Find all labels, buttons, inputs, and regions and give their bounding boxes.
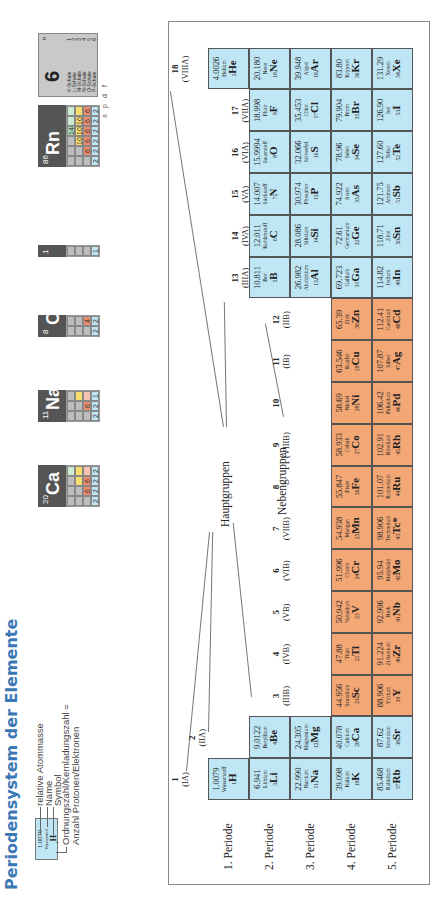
element-cell-xe[interactable]: 131.29Xenon54Xe <box>372 48 413 90</box>
element-cell-zr[interactable]: 91.224Zirkonium40Zr <box>372 633 413 675</box>
atomic-mass: 12.011 <box>253 216 262 256</box>
element-cell-nb[interactable]: 92.906Niob41Nb <box>372 591 413 633</box>
shell-element-header: 1H <box>38 245 66 257</box>
orbital-p-cell <box>83 496 91 506</box>
element-cell-y[interactable]: 88.906Yttrium39Y <box>372 675 413 717</box>
element-cell-al[interactable]: 26.982Aluminium13Al <box>290 257 331 299</box>
group-header-7: 7(VIIB) <box>271 508 291 549</box>
element-cell-b[interactable]: 10.811Bor5B <box>249 257 290 299</box>
element-symbol: 52Te <box>392 132 403 172</box>
element-cell-as[interactable]: 74.922Arsen33As <box>331 173 372 215</box>
element-cell-li[interactable]: 6.941Lithium3Li <box>249 758 290 800</box>
element-cell-ga[interactable]: 69.723Gallium31Ga <box>331 257 372 299</box>
element-cell-br[interactable]: 79.904Brom35Br <box>331 89 372 131</box>
orbital-f-cell <box>67 116 75 126</box>
element-symbol: 54Xe <box>392 49 403 89</box>
element-cell-ru[interactable]: 101.07Ruthenium44Ru <box>372 466 413 508</box>
atomic-mass: 121.75 <box>376 174 385 214</box>
element-cell-s[interactable]: 32.066Schwefel16S <box>290 131 331 173</box>
element-cell-co[interactable]: 58.933Cobalt27Co <box>331 424 372 466</box>
element-cell-sb[interactable]: 121.75Antimon51Sb <box>372 173 413 215</box>
atomic-mass: 126.90 <box>376 90 385 130</box>
element-symbol: 37Rb <box>392 759 403 799</box>
atomic-mass: 47.88 <box>335 634 344 674</box>
element-cell-ge[interactable]: 72.61Germanium32Ge <box>331 215 372 257</box>
element-cell-sn[interactable]: 118.71Zinn50Sn <box>372 215 413 257</box>
orbital-d-cell <box>75 156 83 166</box>
orbital-d-cell <box>75 486 83 496</box>
atomic-mass: 18.998 <box>253 90 262 130</box>
orbital-f-cell <box>67 486 75 496</box>
element-cell-v[interactable]: 50.942Vanadium23V <box>331 591 372 633</box>
orbital-p-cell: 6 <box>83 126 91 136</box>
element-cell-na[interactable]: 22.990Natrium11Na <box>290 758 331 800</box>
orbital-d-cell: 10 <box>75 136 83 146</box>
atomic-mass: 50.942 <box>335 592 344 632</box>
orbital-f-cell <box>67 146 75 156</box>
element-symbol: 14Si <box>310 216 321 256</box>
element-cell-cr[interactable]: 51.996Chrom24Cr <box>331 549 372 591</box>
group-header-15: 15(VA) <box>230 174 250 215</box>
orbital-d-cell <box>75 106 83 116</box>
atomic-mass: 6.941 <box>253 759 262 799</box>
group-header-1: 1(IA) <box>170 759 190 800</box>
period-label-2: 2. Periode <box>263 823 275 870</box>
atomic-mass: 24.305 <box>294 717 303 757</box>
element-cell-ne[interactable]: 20.180Neon10Ne <box>249 48 290 90</box>
element-cell-ca[interactable]: 40.078Calcium20Ca <box>331 716 372 758</box>
element-cell-ar[interactable]: 39.948Argon18Ar <box>290 48 331 90</box>
orbital-f-cell <box>67 391 75 401</box>
element-cell-k[interactable]: 39.098Kalium19K <box>331 758 372 800</box>
element-cell-f[interactable]: 18.998Fluor9F <box>249 89 290 131</box>
element-symbol: 43Tc* <box>392 508 403 548</box>
element-symbol: 19K <box>351 759 362 799</box>
element-cell-te[interactable]: 127.60Tellur52Te <box>372 131 413 173</box>
element-cell-h[interactable]: 1.0079Wasserstoff1H <box>208 758 249 800</box>
shell-legend-n: n <box>41 37 47 40</box>
element-cell-p[interactable]: 30.974Phosphor15P <box>290 173 331 215</box>
element-cell-tc[interactable]: 98.906Technetium43Tc* <box>372 507 413 549</box>
element-cell-cd[interactable]: 112.41Cadmium48Cd <box>372 298 413 340</box>
element-cell-rh[interactable]: 102.91Rhodium45Rh <box>372 424 413 466</box>
element-cell-si[interactable]: 28.086Silicium14Si <box>290 215 331 257</box>
orbital-f-cell <box>67 316 75 326</box>
element-cell-in[interactable]: 114.82Indium49In <box>372 257 413 299</box>
element-symbol: 23V <box>351 592 362 632</box>
element-cell-he[interactable]: 4.0026Helium2He <box>208 48 249 90</box>
electron-configuration-grid: 1 <box>66 245 100 257</box>
atomic-mass: 32.066 <box>294 132 303 172</box>
element-cell-cu[interactable]: 63.546Kupfer29Cu <box>331 340 372 382</box>
element-cell-rb[interactable]: 85.468Rubidium37Rb <box>372 758 413 800</box>
orbital-f-cell <box>67 246 75 256</box>
element-cell-sr[interactable]: 87.62Strontium38Sr <box>372 716 413 758</box>
element-cell-ni[interactable]: 58.69Nickel28Ni <box>331 382 372 424</box>
element-cell-mo[interactable]: 95.94Molybdän42Mo <box>372 549 413 591</box>
element-symbol: 29Cu <box>351 341 362 381</box>
atomic-mass: 20.180 <box>253 49 262 89</box>
element-cell-c[interactable]: 12.011Kohlenstoff6C <box>249 215 290 257</box>
atomic-mass: 85.468 <box>376 759 385 799</box>
element-cell-kr[interactable]: 83.80Krypton36Kr <box>331 48 372 90</box>
shell-row: P-Schale6 <box>92 34 97 96</box>
element-cell-pd[interactable]: 106.42Palladium46Pd <box>372 382 413 424</box>
element-symbol: 21Sc <box>351 676 362 716</box>
atomic-mass: 9.0122 <box>253 717 262 757</box>
element-cell-se[interactable]: 78.96Selen34Se <box>331 131 372 173</box>
element-cell-be[interactable]: 9.0122Beryllium4Be <box>249 716 290 758</box>
electron-configuration-grid: 422 <box>66 315 100 337</box>
element-cell-o[interactable]: 15.9994Sauerstoff8O <box>249 131 290 173</box>
element-cell-sc[interactable]: 44.956Scandium21Sc <box>331 675 372 717</box>
element-cell-zn[interactable]: 65.39Zink30Zn <box>331 298 372 340</box>
element-cell-fe[interactable]: 55.847Eisen26Fe <box>331 466 372 508</box>
element-cell-ag[interactable]: 107.87Silber47Ag <box>372 340 413 382</box>
element-cell-n[interactable]: 14.007Stickstoff7N <box>249 173 290 215</box>
element-cell-mn[interactable]: 54.938Mangan25Mn <box>331 507 372 549</box>
element-cell-i[interactable]: 126.90Iod53I <box>372 89 413 131</box>
element-cell-ti[interactable]: 47.88Titan22Ti <box>331 633 372 675</box>
shell-diagram-h: 1H1 <box>38 245 114 257</box>
element-cell-cl[interactable]: 35.453Chlor17Cl <box>290 89 331 131</box>
element-symbol: 48Cd <box>392 299 403 339</box>
element-cell-mg[interactable]: 24.305Magnesium12Mg <box>290 716 331 758</box>
orbital-f-cell <box>67 106 75 116</box>
atomic-mass: 112.41 <box>376 299 385 339</box>
